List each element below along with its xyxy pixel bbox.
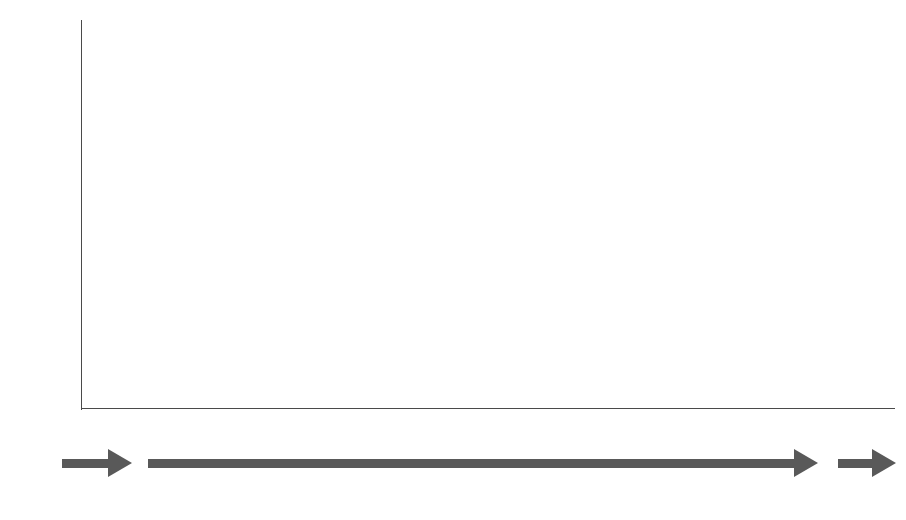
arrow-shaft-main	[148, 459, 796, 468]
arrow-head-taiwan	[108, 449, 132, 477]
arrow-shaft-polynesia	[838, 459, 874, 468]
y-axis-ticks	[8, 0, 72, 440]
dendrogram	[82, 0, 895, 408]
arrow-head-oceania	[794, 449, 818, 477]
settlement-pause-divider-right	[826, 437, 832, 489]
arrow-head-polynesia	[872, 449, 896, 477]
x-axis-line	[81, 408, 895, 409]
arrow-shaft-taiwan	[62, 459, 110, 468]
tree-plot	[82, 0, 895, 408]
chart-root	[0, 0, 906, 520]
settlement-pause-divider-left	[136, 437, 142, 489]
